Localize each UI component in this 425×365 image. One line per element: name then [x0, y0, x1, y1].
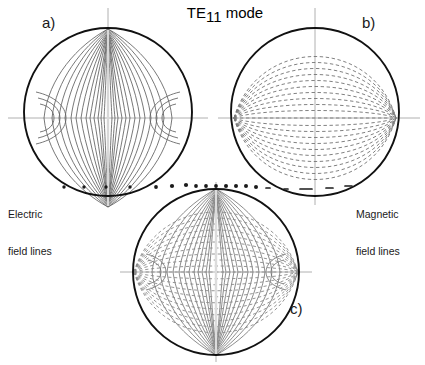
legend-magnetic-line1: Magnetic: [356, 208, 400, 220]
legend-magnetic-line2: field lines: [356, 245, 400, 257]
figure-title-suffix: mode: [222, 4, 264, 21]
figure-title-base: TE: [187, 4, 206, 21]
magnetic-leader-dots: [194, 184, 258, 189]
figure-title-subscript: 11: [206, 8, 222, 25]
magnetic-leader-dashes: [266, 186, 352, 189]
figure-title: TE11 mode: [160, 4, 290, 25]
legend-magnetic: Magnetic field lines: [356, 183, 400, 282]
panel-label-b: b): [362, 14, 375, 32]
panel-label-a: a): [42, 14, 55, 32]
legend-electric-line1: Electric: [8, 208, 52, 220]
panel-label-c: c): [290, 300, 303, 318]
legend-electric-line2: field lines: [8, 245, 52, 257]
legend-electric: Electric field lines: [8, 183, 52, 282]
electric-leader-dots: [62, 183, 188, 189]
te11-mode-figure: TE11 mode a) b) c) Electric field lines …: [0, 0, 425, 365]
